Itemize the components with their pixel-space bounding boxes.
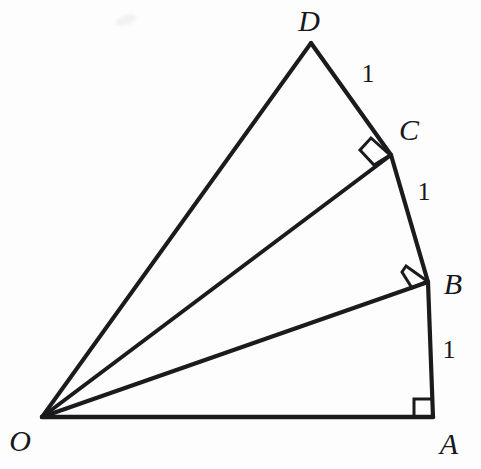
unit-segment-chain bbox=[311, 43, 433, 417]
segment-bc bbox=[391, 155, 428, 282]
segment-od bbox=[42, 43, 311, 417]
segment-ob bbox=[42, 282, 428, 417]
figure-canvas bbox=[0, 0, 481, 469]
right-angle-a-icon bbox=[414, 399, 432, 417]
geometry-figure: O A B C D 1 1 1 bbox=[0, 0, 481, 469]
segment-ab bbox=[428, 282, 433, 417]
segment-cd bbox=[311, 43, 391, 155]
segment-oc bbox=[42, 155, 391, 417]
rays-from-origin bbox=[42, 43, 433, 417]
right-angle-markers bbox=[360, 138, 432, 417]
